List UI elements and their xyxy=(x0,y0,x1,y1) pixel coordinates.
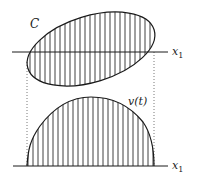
bottom-panel: v(t) x1 xyxy=(13,90,183,174)
projection-lines xyxy=(27,52,154,166)
diagram-canvas: C x1 v(t) x1 xyxy=(0,0,197,177)
top-panel: C x1 xyxy=(12,0,183,100)
region-c-label: C xyxy=(30,17,39,31)
top-axis-label: x1 xyxy=(172,45,183,60)
bottom-axis-label: x1 xyxy=(172,159,183,174)
velocity-label: v(t) xyxy=(128,95,147,108)
